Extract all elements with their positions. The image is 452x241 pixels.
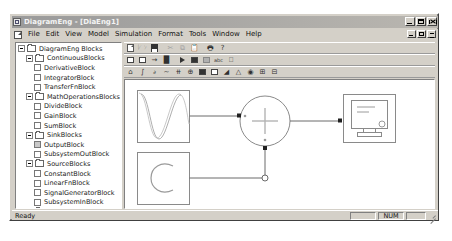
menu-window[interactable]: Window — [209, 30, 243, 39]
transfer-fn-block-tool[interactable]: ∼ — [161, 67, 172, 77]
tree-folder-node[interactable]: DiagramEng Blocks — [16, 44, 121, 54]
subsystem-in-tool[interactable]: ⊞ — [257, 67, 268, 77]
paint-button[interactable]: █ — [161, 55, 172, 65]
maximize-button[interactable] — [416, 17, 426, 26]
simulation-params-button[interactable] — [201, 55, 212, 65]
output-block-tool[interactable]: ⌂ — [125, 67, 136, 77]
tree-leaf-node[interactable]: ConstantBlock — [16, 169, 121, 179]
derivative-block-tool[interactable]: ∂ — [149, 67, 160, 77]
menu-simulation[interactable]: Simulation — [112, 30, 155, 39]
app-icon — [13, 18, 21, 26]
menu-format[interactable]: Format — [155, 30, 186, 39]
status-message: Ready — [15, 212, 350, 220]
status-bar: Ready NUM — [12, 210, 438, 220]
tree-leaf-node[interactable]: TransferFnBlock — [16, 82, 121, 92]
menu-model[interactable]: Model — [85, 30, 112, 39]
tree-leaf-node[interactable]: GainBlock — [16, 111, 121, 121]
signal-generator-tool[interactable]: ◢ — [221, 67, 232, 77]
tree-leaf-node[interactable]: SumBlock — [16, 121, 121, 131]
tree-folder-node[interactable]: SubsystemBlocks — [16, 207, 121, 209]
tree-folder-node[interactable]: MathOperationsBlocks — [16, 92, 121, 102]
tree-expander-icon[interactable] — [26, 160, 33, 167]
tree-leaf-node[interactable]: SignalGeneratorBlock — [16, 188, 121, 198]
gain-block-tool[interactable]: △ — [233, 67, 244, 77]
tree-folder-node[interactable]: SourceBlocks — [16, 159, 121, 169]
integrator-block-tool[interactable]: ∫ — [137, 67, 148, 77]
resize-grip[interactable] — [428, 211, 437, 220]
tree-leaf-node[interactable]: SubsystemOutBlock — [16, 150, 121, 160]
conn-constant-to-sum[interactable] — [190, 148, 266, 178]
tree-expander-icon[interactable] — [26, 55, 33, 62]
tree-expander-icon[interactable] — [26, 132, 33, 139]
status-pane-blank — [350, 212, 376, 220]
block-icon — [34, 103, 41, 110]
zoom-fit-button[interactable]: ⎕ — [225, 55, 236, 65]
subsystem-out-tool[interactable]: ⊟ — [269, 67, 280, 77]
cut-button[interactable]: ✂ — [165, 43, 176, 53]
new-file-button[interactable] — [125, 43, 136, 53]
tree-leaf-node[interactable]: OutputBlock — [16, 140, 121, 150]
tree-leaf-node[interactable]: SubsystemInBlock — [16, 198, 121, 208]
block-icon — [34, 84, 41, 91]
application-window: DiagramEng - [DiaEng1] File Edit View Mo… — [9, 13, 439, 221]
copy-button[interactable]: ⧉ — [177, 43, 188, 53]
constant-block[interactable] — [138, 153, 190, 205]
sum-block[interactable] — [240, 96, 290, 146]
sum-input-port-2 — [263, 146, 267, 150]
status-pane-num: NUM — [378, 212, 404, 220]
tree-leaf-node[interactable]: DivideBlock — [16, 102, 121, 112]
menu-file[interactable]: File — [25, 30, 43, 39]
block-library-panel[interactable]: DiagramEng BlocksContinuousBlocksDerivat… — [15, 42, 122, 209]
folder-icon — [35, 208, 44, 209]
open-file-button[interactable]: 🗁 — [137, 43, 148, 53]
subsystem-block-tool[interactable]: ◉ — [245, 67, 256, 77]
mdi-minimize-button[interactable] — [407, 30, 416, 38]
window-title: DiagramEng - [DiaEng1] — [24, 18, 119, 26]
connection-button[interactable]: ⇝ — [149, 55, 160, 65]
menu-edit[interactable]: Edit — [43, 30, 63, 39]
minimize-button[interactable] — [405, 17, 415, 26]
tree-node-label: SubsystemInBlock — [44, 198, 104, 206]
menu-tools[interactable]: Tools — [186, 30, 209, 39]
tree-folder-node[interactable]: ContinuousBlocks — [16, 54, 121, 64]
save-file-button[interactable] — [149, 43, 160, 53]
mdi-close-button[interactable] — [427, 30, 436, 38]
close-button[interactable] — [427, 17, 437, 26]
sum-block-tool[interactable]: ⊕ — [185, 67, 196, 77]
stop-simulation-button[interactable] — [189, 55, 200, 65]
menu-view[interactable]: View — [62, 30, 85, 39]
output-block[interactable] — [344, 95, 396, 143]
tree-leaf-node[interactable]: DerivativeBlock — [16, 63, 121, 73]
tree-expander-icon[interactable] — [26, 208, 33, 209]
tree-expander-icon[interactable] — [18, 45, 25, 52]
tree-expander-icon[interactable] — [26, 93, 33, 100]
print-button[interactable]: 🖶 — [205, 43, 216, 53]
label-abc-button[interactable]: abc — [213, 55, 224, 65]
tree-folder-node[interactable]: SinkBlocks — [16, 130, 121, 140]
constant-block-tool[interactable] — [209, 67, 220, 77]
tree-node-label: DivideBlock — [44, 102, 82, 110]
menu-help[interactable]: Help — [243, 30, 265, 39]
about-button[interactable]: ? — [217, 43, 228, 53]
status-pane-caps — [406, 212, 426, 220]
document-icon[interactable] — [14, 31, 22, 39]
mdi-restore-button[interactable] — [417, 30, 426, 38]
sum-sign-plus-2 — [264, 139, 267, 142]
folder-icon — [35, 132, 44, 139]
signal-generator-block[interactable] — [138, 91, 190, 143]
paste-button[interactable]: 📋 — [189, 43, 200, 53]
display-block-tool[interactable] — [197, 67, 208, 77]
title-bar[interactable]: DiagramEng - [DiaEng1] — [12, 16, 438, 28]
tree-node-label: SignalGeneratorBlock — [44, 189, 115, 197]
new-block-button[interactable] — [125, 55, 136, 65]
block-icon — [34, 64, 41, 71]
standard-toolbar: 🗁 ✂ ⧉ 📋 🖶 ? — [124, 42, 435, 54]
diagram-canvas[interactable] — [124, 79, 435, 209]
block-group-button[interactable] — [137, 55, 148, 65]
tree-node-label: TransferFnBlock — [44, 83, 96, 91]
tree-leaf-node[interactable]: IntegratorBlock — [16, 73, 121, 83]
tree-leaf-node[interactable]: LinearFnBlock — [16, 178, 121, 188]
run-simulation-button[interactable] — [177, 55, 188, 65]
divide-block-tool[interactable]: ⧺ — [173, 67, 184, 77]
model-toolbar: ⇝ █ abc ⎕ — [124, 54, 435, 66]
